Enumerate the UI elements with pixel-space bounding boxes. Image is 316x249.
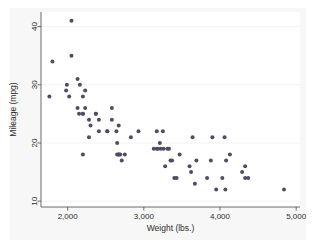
y-tick-group: 10203040 bbox=[30, 22, 41, 206]
data-point bbox=[117, 124, 121, 128]
data-point bbox=[114, 129, 118, 133]
data-point bbox=[161, 129, 165, 133]
data-point bbox=[76, 106, 80, 110]
data-point bbox=[76, 77, 80, 81]
data-point bbox=[120, 158, 124, 162]
data-point bbox=[89, 124, 93, 128]
data-point bbox=[220, 176, 224, 180]
data-point bbox=[228, 153, 232, 157]
data-point bbox=[64, 89, 68, 93]
data-point bbox=[94, 112, 98, 116]
axes-group bbox=[41, 12, 300, 207]
data-point bbox=[193, 182, 197, 186]
data-point bbox=[155, 129, 159, 133]
data-point bbox=[175, 176, 179, 180]
data-point bbox=[159, 147, 163, 151]
data-point bbox=[210, 135, 214, 139]
data-point bbox=[87, 135, 91, 139]
data-point bbox=[224, 158, 228, 162]
data-point bbox=[117, 153, 121, 157]
data-point bbox=[81, 112, 85, 116]
data-point bbox=[87, 118, 91, 122]
data-point bbox=[170, 158, 174, 162]
data-point bbox=[67, 94, 71, 98]
data-point bbox=[194, 158, 198, 162]
data-point bbox=[81, 153, 85, 157]
data-point bbox=[129, 135, 133, 139]
data-point bbox=[243, 164, 247, 168]
x-tick-label-5000: 5,000 bbox=[286, 212, 307, 221]
data-point bbox=[137, 129, 141, 133]
data-point bbox=[81, 94, 85, 98]
plot-canvas: 2,0003,0004,0005,000 10203040 Weight (lb… bbox=[0, 0, 316, 249]
y-tick-label-30: 30 bbox=[30, 80, 39, 89]
data-point bbox=[69, 54, 73, 58]
x-tick-label-2000: 2,000 bbox=[58, 212, 79, 221]
y-axis-title: Mileage (mpg) bbox=[8, 82, 18, 136]
y-tick-label-20: 20 bbox=[30, 138, 39, 147]
data-point bbox=[83, 106, 87, 110]
data-point bbox=[178, 153, 182, 157]
data-point bbox=[165, 147, 169, 151]
data-point bbox=[191, 135, 195, 139]
data-point bbox=[105, 129, 109, 133]
data-point bbox=[110, 118, 114, 122]
data-point bbox=[246, 176, 250, 180]
data-point bbox=[47, 94, 51, 98]
data-point bbox=[188, 164, 192, 168]
data-point bbox=[189, 170, 193, 174]
data-point bbox=[97, 129, 101, 133]
x-tick-group: 2,0003,0004,0005,000 bbox=[58, 207, 307, 221]
x-tick-label-3000: 3,000 bbox=[134, 212, 155, 221]
y-tick-label-40: 40 bbox=[30, 22, 39, 31]
data-point bbox=[65, 83, 69, 87]
data-point bbox=[110, 106, 114, 110]
data-point bbox=[115, 141, 119, 145]
data-markers-group bbox=[47, 19, 286, 192]
x-axis-title: Weight (lbs.) bbox=[147, 223, 195, 233]
data-point bbox=[163, 164, 167, 168]
data-point bbox=[240, 170, 244, 174]
data-point bbox=[282, 188, 286, 192]
data-point bbox=[214, 188, 218, 192]
data-point bbox=[123, 153, 127, 157]
data-point bbox=[78, 83, 82, 87]
data-point bbox=[152, 147, 156, 151]
x-tick-label-4000: 4,000 bbox=[210, 212, 231, 221]
data-point bbox=[97, 118, 101, 122]
data-point bbox=[50, 59, 54, 63]
scatter-plot-figure: 2,0003,0004,0005,000 10203040 Weight (lb… bbox=[0, 0, 316, 249]
data-point bbox=[77, 112, 81, 116]
data-point bbox=[223, 188, 227, 192]
data-point bbox=[205, 176, 209, 180]
data-point bbox=[158, 141, 162, 145]
data-point bbox=[209, 158, 213, 162]
y-tick-label-10: 10 bbox=[30, 196, 39, 205]
data-point bbox=[83, 89, 87, 93]
data-point bbox=[223, 135, 227, 139]
data-point bbox=[69, 19, 73, 23]
